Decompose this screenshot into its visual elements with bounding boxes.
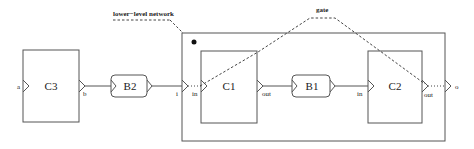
buffer-b1-label: B1 — [306, 80, 319, 92]
component-c3[interactable]: C3 — [23, 50, 79, 122]
port-c1-in-label: in — [192, 90, 198, 98]
port-c2-in-label: in — [357, 90, 363, 98]
gate-dot-marker — [192, 40, 197, 45]
port-b-label: b — [83, 90, 87, 98]
component-c1[interactable]: C1 — [201, 51, 257, 123]
component-c2-label: C2 — [389, 80, 402, 92]
annotation-lower-level-network: lower−level network — [113, 10, 174, 18]
buffer-b1[interactable]: B1 — [292, 75, 335, 97]
port-o-label: o — [455, 83, 459, 91]
annotation-gate: gate — [316, 6, 328, 14]
port-c1-out-label: out — [262, 90, 271, 98]
port-a-label: a — [17, 83, 21, 91]
network-diagram: C3 a b B2 i C1 in out B1 C2 — [0, 0, 474, 149]
component-c1-label: C1 — [223, 80, 236, 92]
port-i-label: i — [176, 90, 178, 98]
buffer-b2-label: B2 — [124, 80, 137, 92]
component-c2[interactable]: C2 — [368, 51, 422, 123]
port-o-icon — [445, 80, 451, 92]
port-c2-out-label: out — [424, 91, 433, 99]
port-i-icon — [182, 80, 188, 92]
buffer-b2[interactable]: B2 — [111, 75, 152, 97]
component-c3-label: C3 — [45, 80, 58, 92]
annotation-lower-level-network-leader — [170, 20, 183, 33]
